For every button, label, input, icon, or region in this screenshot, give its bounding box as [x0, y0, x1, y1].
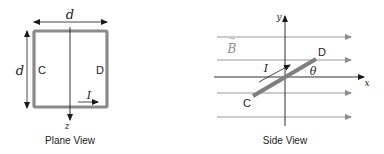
plane-view-caption: Plane View — [45, 135, 96, 146]
side-d-label: D — [96, 64, 104, 76]
current-label: I — [86, 89, 92, 102]
rod-cd — [253, 59, 316, 96]
side-view: x y → B I D C θ Side View — [214, 12, 370, 146]
x-axis-label: x — [364, 78, 369, 88]
width-label: d — [66, 7, 74, 22]
side-c-label: C — [38, 64, 46, 76]
y-axis-label: y — [275, 12, 282, 22]
z-axis-label: z — [64, 121, 70, 131]
field-label: B — [227, 42, 237, 56]
angle-theta-label: θ — [310, 65, 317, 78]
end-c-label: C — [243, 97, 251, 109]
end-d-label: D — [318, 46, 326, 58]
plane-view: d d z C D I Plane View — [16, 7, 107, 146]
height-label: d — [16, 63, 24, 78]
current-label: I — [263, 62, 269, 75]
side-view-caption: Side View — [263, 135, 308, 146]
figure-canvas: d d z C D I Plane View x y — [0, 0, 384, 154]
